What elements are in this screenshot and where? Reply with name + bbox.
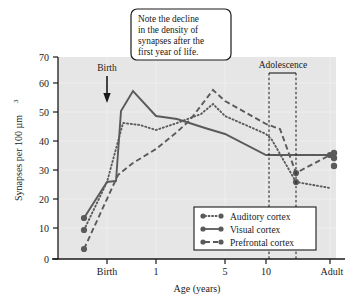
x-tick-label-10: 10 <box>261 266 271 277</box>
callout-line-1: Note the decline <box>138 14 199 24</box>
callout-line-3: synapses after the <box>138 36 204 46</box>
y-tick-label-60: 60 <box>39 78 49 89</box>
adolescence-annotation-label: Adolescence <box>259 60 308 70</box>
y-tick-label-10: 10 <box>39 223 49 234</box>
birth-annotation-label: Birth <box>97 63 117 73</box>
y-tick-label-50: 50 <box>39 107 49 118</box>
callout-line-2: in the density of <box>138 25 199 35</box>
chart-canvas: 70 60 50 40 30 20 10 0 Birth 1 5 10 Adul… <box>0 0 353 300</box>
x-axis-title: Age (years) <box>174 283 221 295</box>
series-point-visual-cortex-start <box>81 215 87 221</box>
y-tick-label-0: 0 <box>44 254 49 265</box>
legend-marker-prefrontal-end <box>218 239 223 244</box>
y-tick-label-70: 70 <box>39 52 49 63</box>
adult-point-2 <box>331 155 337 161</box>
y-tick-label-20: 20 <box>39 194 49 205</box>
y-axis-title-exponent: 3 <box>12 99 20 103</box>
adult-point-3 <box>331 163 337 169</box>
legend-label-visual-cortex: Visual cortex <box>230 225 281 235</box>
x-tick-label-adult: Adult <box>321 266 344 277</box>
callout-line-4: first year of life. <box>138 47 198 57</box>
legend-label-prefrontal-cortex: Prefrontal cortex <box>230 238 294 248</box>
legend-marker-prefrontal-start <box>200 239 205 244</box>
x-tick-label-5: 5 <box>223 266 228 277</box>
series-point-prefrontal-cortex-start <box>81 246 87 252</box>
synapse-density-figure: 70 60 50 40 30 20 10 0 Birth 1 5 10 Adul… <box>0 0 353 300</box>
x-tick-label-birth: Birth <box>97 266 118 277</box>
y-tick-label-30: 30 <box>39 165 49 176</box>
y-axis-title: Synapses per 100 µm <box>13 115 24 201</box>
x-tick-label-1: 1 <box>154 266 159 277</box>
series-point-auditory-cortex-start <box>81 227 87 233</box>
callout-box: Note the decline in the density of synap… <box>131 9 231 60</box>
legend-marker-auditory-end <box>218 213 223 218</box>
legend: Auditory cortex Visual cortex Prefrontal… <box>194 207 316 250</box>
y-axis-ticks <box>53 57 58 259</box>
legend-label-auditory-cortex: Auditory cortex <box>230 212 291 222</box>
y-axis-title-group: Synapses per 100 µm 3 <box>12 99 25 201</box>
legend-marker-visual-end <box>218 226 223 231</box>
x-axis-ticks <box>107 259 330 264</box>
y-tick-label-40: 40 <box>39 136 49 147</box>
